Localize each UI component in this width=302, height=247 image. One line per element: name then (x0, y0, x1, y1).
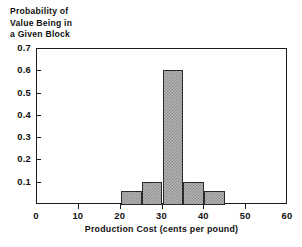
x-axis-tick (245, 204, 246, 209)
y-axis-tick-label: 0.2 (4, 154, 31, 164)
y-axis-tick (36, 93, 41, 94)
bar (142, 182, 163, 205)
bar (121, 191, 142, 205)
y-axis-tick (36, 159, 41, 160)
y-axis-tick (36, 182, 41, 183)
x-axis-title: Production Cost (cents per pound) (36, 224, 287, 234)
bar (163, 70, 184, 205)
y-axis-title: Probability of Value Being in a Given Bl… (10, 6, 145, 41)
y-axis-tick-label: 0.4 (4, 110, 31, 120)
x-axis-tick-label: 0 (33, 210, 38, 221)
y-axis-tick-label: 0.6 (4, 65, 31, 75)
x-axis-tick-label: 60 (282, 210, 293, 221)
y-axis-tick-label: 0.1 (4, 177, 31, 187)
x-axis-tick-label: 20 (114, 210, 125, 221)
x-axis-tick-label: 50 (240, 210, 251, 221)
x-axis-tick (162, 204, 163, 209)
y-axis-tick (36, 137, 41, 138)
x-axis-tick (203, 204, 204, 209)
x-axis-tick-label: 10 (72, 210, 83, 221)
y-axis-tick-label: 0.5 (4, 88, 31, 98)
x-axis-tick (120, 204, 121, 209)
y-axis-tick (36, 70, 41, 71)
x-axis-tick-label: 30 (156, 210, 167, 221)
y-axis-tick (36, 48, 41, 49)
y-axis-tick-label: 0.7 (4, 43, 31, 53)
plot-area (36, 48, 287, 204)
y-axis-tick (36, 115, 41, 116)
x-axis-tick (78, 204, 79, 209)
bar (204, 191, 225, 205)
bar (183, 182, 204, 205)
y-axis-tick-label: 0.3 (4, 132, 31, 142)
histogram-figure: Probability of Value Being in a Given Bl… (0, 0, 302, 247)
x-axis-tick-label: 40 (198, 210, 209, 221)
